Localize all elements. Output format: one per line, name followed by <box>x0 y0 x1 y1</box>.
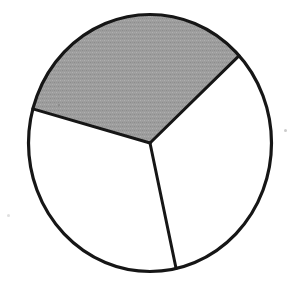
circle-fraction-diagram: Circle divided into three equal sectors … <box>0 0 297 283</box>
pie-chart-svg <box>0 0 297 283</box>
scan-speck-right <box>284 129 287 132</box>
scan-speck-left <box>7 214 10 217</box>
scan-speck-inner <box>58 104 60 106</box>
